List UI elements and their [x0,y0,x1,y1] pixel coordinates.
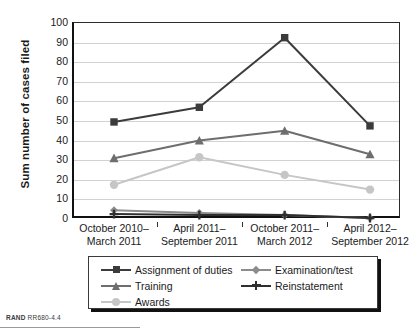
y-tick-100: 100 [36,17,68,27]
x-axis-minor-tick-3 [327,222,328,227]
footer-rule [0,327,140,328]
legend-item-label: Assignment of duties [131,264,232,276]
data-point [196,104,203,111]
y-tick-80: 80 [36,56,68,66]
circle-marker-icon [101,296,131,308]
data-point [280,211,289,220]
source-id: RR680-4.4 [28,314,61,321]
figure-chart-cases-filed: Sum number of cases filed 10090807060504… [0,0,420,335]
x-tick-label-3: April 2012–September 2012 [318,222,420,247]
series-assignment-of-duties [110,34,373,130]
legend-column-left: Assignment of dutiesTrainingAwards [101,262,232,310]
series-line [114,157,370,189]
x-axis-tick-labels: October 2010–March 2011April 2011–Septem… [72,222,400,256]
y-tick-20: 20 [36,174,68,184]
legend-item[interactable]: Examination/test [241,262,353,277]
series-line [114,214,370,218]
data-point [110,180,118,188]
y-tick-70: 70 [36,76,68,86]
data-point [195,153,203,161]
y-tick-30: 30 [36,154,68,164]
legend-item-label: Training [131,280,173,292]
legend-column-right: Examination/testReinstatement [241,262,353,294]
square-marker-icon [101,264,131,276]
x-axis-minor-tick-2 [242,222,243,227]
legend-item[interactable]: Reinstatement [241,278,353,293]
legend-item-label: Reinstatement [271,280,343,292]
y-axis-tick-labels: 1009080706050403020100 [36,22,68,218]
y-tick-60: 60 [36,95,68,105]
legend-item[interactable]: Training [101,278,232,293]
y-tick-40: 40 [36,135,68,145]
legend-item-label: Awards [131,296,170,308]
x-axis-minor-tick-1 [157,222,158,227]
x-tick-label-3-line1: April 2012– [318,222,420,235]
y-axis-title: Sum number of cases filed [19,19,31,209]
series-line [114,131,370,158]
legend-item[interactable]: Assignment of duties [101,262,232,277]
series-line [114,38,370,126]
source-prefix: RAND [6,314,26,321]
data-point [366,185,374,193]
data-point [366,122,373,129]
data-point [280,171,288,179]
data-point [281,34,288,41]
plus-marker-icon [241,280,271,292]
y-tick-10: 10 [36,193,68,203]
series-awards [110,153,374,194]
triangle-marker-icon [101,280,131,292]
y-tick-90: 90 [36,37,68,47]
data-point [195,211,204,220]
data-point [110,118,117,125]
legend-item-label: Examination/test [271,264,353,276]
figure-source-caption: RAND RR680-4.4 [6,314,61,321]
diamond-marker-icon [241,264,271,276]
y-tick-50: 50 [36,115,68,125]
series-layer [72,22,400,218]
series-training [109,126,374,162]
legend: Assignment of dutiesTrainingAwards Exami… [88,256,378,309]
x-tick-label-3-line2: September 2012 [318,235,420,248]
legend-item[interactable]: Awards [101,294,232,309]
